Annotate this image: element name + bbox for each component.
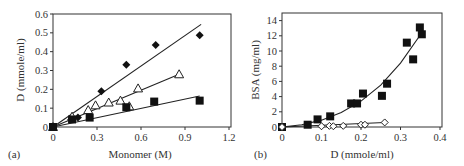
y-tick-label: 0.6 [35, 9, 48, 20]
x-tick-label: 0.2 [354, 132, 367, 143]
x-tick-label: 0.1 [315, 132, 328, 143]
y-tick-label: 0.1 [35, 103, 48, 114]
panel-b-tag: (b) [254, 148, 267, 161]
data-point [353, 99, 361, 107]
data-point [122, 103, 130, 111]
y-tick-label: 0.4 [35, 46, 49, 57]
y-tick-label: 14 [267, 15, 278, 26]
data-point [68, 115, 76, 123]
x-tick-label: 0.4 [433, 132, 447, 143]
data-point [304, 121, 312, 129]
panel-a-chart: 00.10.20.30.40.50.600.30.60.91.2 [35, 9, 236, 144]
data-point [122, 61, 130, 69]
y-tick-label: 2 [272, 106, 277, 117]
data-point [134, 84, 143, 92]
y-tick-label: 0.3 [35, 65, 48, 76]
panel-b-chart: 0246810121400.10.20.30.4 [267, 13, 448, 143]
data-point [381, 119, 388, 126]
data-point [378, 92, 386, 100]
data-point [359, 90, 367, 98]
panel-a-tag: (a) [8, 148, 21, 161]
x-tick-label: 0.9 [178, 132, 191, 143]
data-point [150, 98, 158, 106]
y-tick-label: 0 [43, 122, 48, 133]
data-point [340, 122, 347, 129]
y-tick-label: 4 [272, 91, 278, 102]
panel-b-xlabel: D (mmole/ml) [330, 148, 394, 161]
data-point [91, 101, 100, 109]
data-point [152, 41, 160, 49]
data-point [318, 123, 325, 130]
x-tick-label: 0 [279, 132, 284, 143]
data-point [418, 30, 426, 38]
fit-line [282, 35, 420, 127]
x-tick-label: 0.6 [134, 132, 147, 143]
y-tick-label: 10 [267, 46, 278, 57]
data-point [84, 106, 93, 114]
y-tick-label: 0 [272, 122, 277, 133]
data-point [97, 87, 105, 95]
data-point [86, 114, 94, 122]
panel-a-xlabel: Monomer (M) [108, 148, 172, 161]
y-tick-label: 12 [267, 30, 278, 41]
y-tick-label: 8 [272, 61, 277, 72]
data-point [49, 123, 57, 131]
data-point [196, 97, 204, 105]
data-point [409, 55, 417, 63]
x-tick-label: 0.3 [90, 132, 103, 143]
panel-b-ylabel: BSA (mg/ml) [249, 40, 262, 100]
data-point [383, 80, 391, 88]
x-tick-label: 0 [50, 132, 55, 143]
y-tick-label: 6 [272, 76, 277, 87]
data-point [403, 39, 411, 47]
panel-a-ylabel: D (mmole/ml) [14, 38, 27, 102]
figure: 00.10.20.30.40.50.600.30.60.91.2 0246810… [0, 0, 464, 166]
x-tick-label: 0.3 [394, 132, 407, 143]
data-point [314, 115, 322, 123]
data-point [326, 112, 334, 120]
y-tick-label: 0.2 [35, 84, 48, 95]
plot-frame [53, 14, 231, 127]
x-tick-label: 1.2 [222, 132, 235, 143]
data-point [175, 70, 184, 78]
data-point [196, 31, 204, 39]
data-point [416, 23, 424, 31]
y-tick-label: 0.5 [35, 27, 48, 38]
